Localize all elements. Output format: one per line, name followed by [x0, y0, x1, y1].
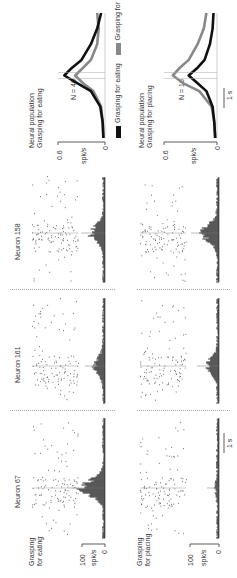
figure: Grasping for eating Grasping for placing… [0, 0, 237, 578]
population-curves [0, 0, 237, 578]
